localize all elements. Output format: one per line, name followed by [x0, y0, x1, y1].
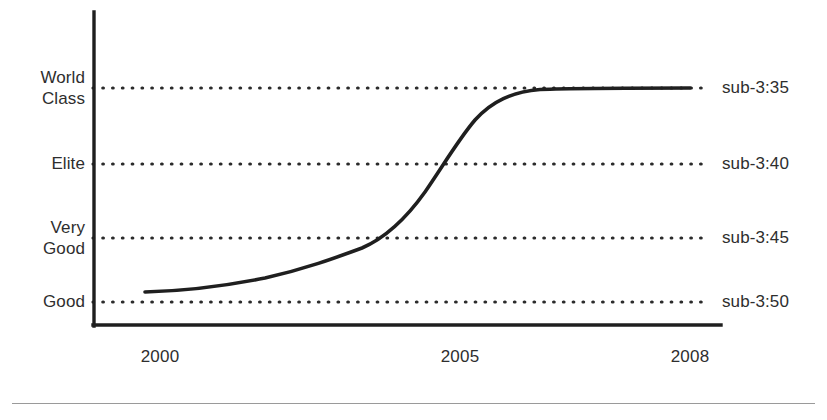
- chart-background: [0, 0, 827, 420]
- bottom-divider-rule: [12, 403, 815, 404]
- chart-canvas: [0, 0, 827, 420]
- figure-panel: World Class Elite Very Good Good sub-3:3…: [0, 0, 827, 420]
